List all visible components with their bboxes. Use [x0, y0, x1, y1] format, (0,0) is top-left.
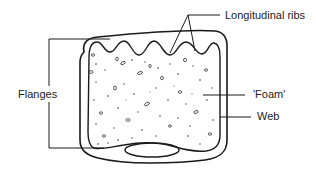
label-web: Web	[257, 111, 279, 122]
foam-dots	[93, 59, 214, 145]
ribs-leader	[170, 15, 220, 53]
label-flanges: Flanges	[18, 89, 57, 100]
cross-section-drawing	[0, 0, 316, 170]
label-longitudinal-ribs: Longitudinal ribs	[225, 10, 305, 21]
label-foam: 'Foam'	[253, 89, 285, 100]
diagram-canvas: Longitudinal ribs Flanges 'Foam' Web	[0, 0, 316, 170]
bottom-channel-ellipse	[125, 143, 179, 157]
